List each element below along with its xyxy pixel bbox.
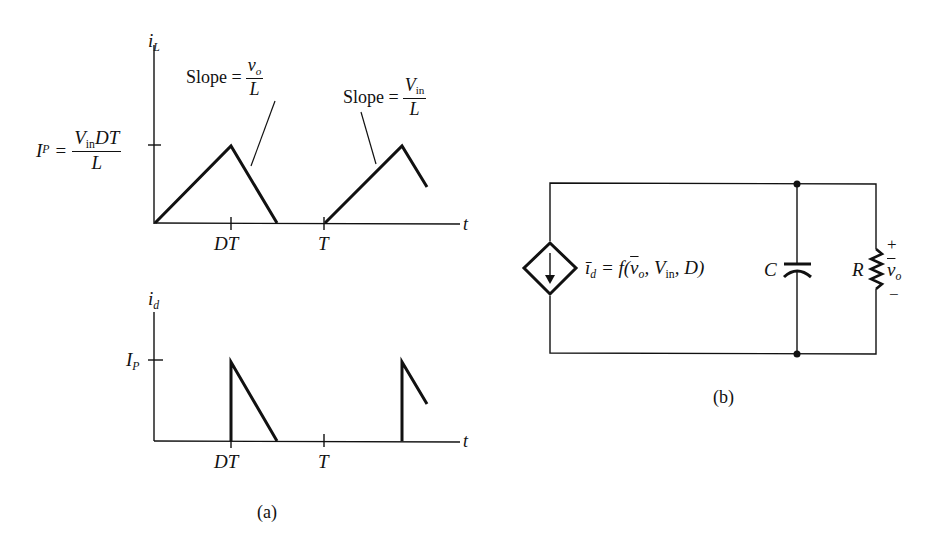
- vo-plus-sign: +: [887, 236, 897, 253]
- slope1-leader: [251, 101, 275, 166]
- source-equation: īd = f(vo, Vin, D): [585, 258, 704, 281]
- id-tick-t-label: T: [318, 452, 329, 471]
- diode-current-plot: [148, 312, 460, 448]
- il-tick-dt-label: DT: [214, 234, 238, 253]
- vo-minus-sign: −: [889, 286, 899, 303]
- id-x-axis-label: t: [463, 432, 468, 450]
- wire-bottom: [550, 289, 876, 354]
- resistor-label: R: [852, 260, 864, 279]
- figure-b-caption: (b): [713, 388, 734, 406]
- source-arrow-head-icon: [545, 275, 555, 284]
- il-y-axis-label: iL: [148, 31, 160, 54]
- il-x-axis-label: t: [463, 215, 468, 233]
- figure-canvas: [0, 0, 940, 534]
- il-waveform-2: [325, 146, 427, 223]
- node-dot-bottom: [794, 351, 801, 358]
- figure-a-caption: (a): [257, 503, 277, 521]
- id-ip-label: IP: [126, 350, 140, 373]
- node-dot-top: [794, 181, 801, 188]
- slope1-annotation: Slope = vo L: [186, 56, 263, 98]
- resistor-zigzag: [871, 249, 882, 289]
- il-ip-label: IP = VinDT L: [36, 128, 121, 172]
- il-waveform-1: [155, 146, 277, 223]
- slope2-annotation: Slope = Vin L: [343, 76, 426, 118]
- capacitor-label: C: [764, 260, 777, 279]
- id-waveform-2: [402, 362, 427, 441]
- wire-top: [550, 183, 876, 249]
- slope2-leader: [361, 112, 376, 164]
- id-y-axis-label: id: [148, 289, 159, 312]
- il-x-axis: [154, 223, 460, 224]
- id-tick-dt-label: DT: [214, 452, 238, 471]
- vo-label: vo: [887, 260, 901, 283]
- il-tick-t-label: T: [318, 234, 329, 253]
- id-waveform-1: [231, 362, 277, 441]
- id-x-axis: [154, 441, 460, 442]
